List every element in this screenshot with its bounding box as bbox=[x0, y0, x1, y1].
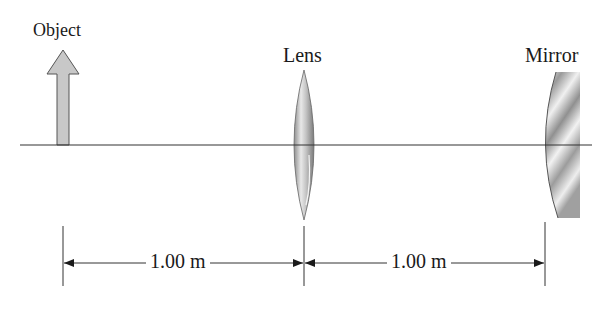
distance-object-lens-label: 1.00 m bbox=[146, 250, 210, 273]
lens-label: Lens bbox=[283, 44, 322, 67]
distance-lens-mirror-label: 1.00 m bbox=[387, 250, 451, 273]
mirror-label: Mirror bbox=[525, 44, 578, 67]
object-arrow-icon bbox=[47, 50, 79, 145]
object-label: Object bbox=[33, 20, 81, 41]
